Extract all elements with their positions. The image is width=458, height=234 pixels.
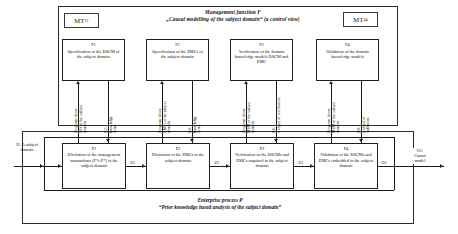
vertical-label-response-bfs: Response about BFs of the subject domain xyxy=(74,89,88,133)
process-code-p4: P4 xyxy=(318,146,374,151)
function-box-f2: F2 Specification of the EMCs of the subj… xyxy=(146,39,209,81)
feedback-line-lower-left xyxy=(44,166,45,190)
mt44-label: MT xyxy=(353,16,363,23)
vlabel-5-line3: domain xyxy=(251,89,256,133)
management-title-line1: Management function F xyxy=(205,9,261,15)
vertical-label-response-mem-verification: Response about MEM of the subject domain xyxy=(242,89,256,133)
vertical-label-k8: K8: a object of validation xyxy=(357,89,371,133)
arrow-up-f2-response xyxy=(160,81,164,84)
feedback-line-lower-right xyxy=(394,166,395,190)
flow-label-z3: Z3 xyxy=(298,160,303,165)
connector-line-input xyxy=(14,166,62,167)
arrow-right-z3 xyxy=(310,164,313,168)
output-label-o1: O1: Causal model xyxy=(402,148,438,164)
vlabel-8-line3: validation xyxy=(366,89,371,133)
flow-label-z1: Z1 xyxy=(130,160,135,165)
mt11-subscript: 11 xyxy=(85,18,89,23)
function-box-f3: F3 Verification of the domain knowledge … xyxy=(230,39,293,81)
vlabel-3-line3: domain xyxy=(167,89,172,133)
flow-label-o1: O1 xyxy=(381,160,387,165)
function-box-f1: F1 Specification of the DSCM of the subj… xyxy=(62,39,125,81)
arrow-down-f4-object xyxy=(359,139,363,142)
function-box-f4: F4 Validation of the domain knowledge mo… xyxy=(316,39,379,81)
arrow-right-z2 xyxy=(226,164,229,168)
management-title-line2: „Causal modelling of the subject domain“… xyxy=(166,16,299,22)
input-label-i1: I1: A subject domain xyxy=(6,142,48,152)
arrow-right-feedback-left xyxy=(40,164,43,168)
mt11-label: MT xyxy=(74,17,84,24)
vlabel-7-line3: domain xyxy=(336,89,341,133)
function-text-f1: Specification of the DSCM of the subject… xyxy=(67,49,119,59)
vlabel-2-line3: items xyxy=(113,89,118,133)
function-code-f4: F4 xyxy=(319,42,376,47)
function-code-f2: F2 xyxy=(149,42,206,47)
vlabel-1-line1: Response about xyxy=(74,108,78,133)
arrow-down-f3-object xyxy=(274,139,278,142)
output-label-line3: model xyxy=(402,158,438,163)
vlabel-2-line1: K2: xyxy=(104,127,108,133)
flow-label-z2: Z2 xyxy=(214,160,219,165)
vlabel-6-line1: K6: xyxy=(272,127,276,133)
vlabel-8-line1: K8: xyxy=(357,127,361,133)
arrow-right-input xyxy=(58,164,61,168)
enterprise-title-line1: Enterprise process P xyxy=(197,197,242,203)
process-code-p1: P1 xyxy=(66,146,122,151)
arrow-down-f2-knowledge xyxy=(190,139,194,142)
vlabel-1-line3: domain xyxy=(83,89,88,133)
mt44-subscript: 44 xyxy=(363,17,367,22)
management-function-title: Management function F „Causal modelling … xyxy=(118,9,348,23)
arrow-right-z1 xyxy=(142,164,145,168)
arrow-up-f3-response xyxy=(244,81,248,84)
mt44-badge: MT44 xyxy=(343,12,378,27)
process-box-p2: P2 Elicitation of the EMCs in the subjec… xyxy=(146,143,210,189)
vlabel-7-line1: Response about xyxy=(327,108,331,133)
input-label-line2: domain xyxy=(6,147,48,152)
vlabel-5-line1: Response about xyxy=(242,108,246,133)
vlabel-3-line1: Response about xyxy=(158,108,162,133)
feedback-bus-lower xyxy=(44,190,394,191)
arrow-right-output xyxy=(440,164,443,168)
vlabel-6-line2: a object of verification xyxy=(277,89,282,133)
function-code-f1: F1 xyxy=(65,42,122,47)
enterprise-title-line2: “Prior knowledge based analysis of the s… xyxy=(159,204,281,210)
feedback-line-right xyxy=(394,137,395,167)
vlabel-4-line1: K4: xyxy=(188,127,192,133)
function-text-f3: Verification of the domain knowledge mod… xyxy=(235,49,288,65)
process-code-p2: P2 xyxy=(150,146,206,151)
enterprise-process-title: Enterprise process P “Prior knowledge ba… xyxy=(120,197,320,212)
arrow-down-f1-knowledge xyxy=(106,139,110,142)
feedback-line-left xyxy=(44,137,45,167)
process-box-p1: P1 Elicitation of the management transac… xyxy=(62,143,126,189)
connector-line-output xyxy=(378,166,444,167)
process-box-p4: P4 Validation of the DSCMs and EMCs embe… xyxy=(314,143,378,189)
process-text-p2: Elicitation of the EMCs in the subject d… xyxy=(152,152,204,162)
process-box-p3: P3 Verification of the DSCMs and EMCs ac… xyxy=(230,143,294,189)
function-code-f3: F3 xyxy=(233,42,290,47)
arrow-up-f4-response xyxy=(329,81,333,84)
mt11-badge: MT11 xyxy=(64,13,99,28)
process-code-p3: P3 xyxy=(234,146,290,151)
diagram-canvas: Management function F „Causal modelling … xyxy=(0,0,458,234)
vertical-label-k6: K6: a object of verification xyxy=(272,89,281,133)
vertical-label-response-emcs: Response about EMCs of the subject domai… xyxy=(158,89,172,133)
vlabel-4-line3: items xyxy=(197,89,202,133)
function-text-f4: Validation of the domain knowledge model… xyxy=(326,49,369,59)
process-text-p3: Verification of the DSCMs and EMCs acqui… xyxy=(235,152,289,168)
function-text-f2: Specification of the EMCs of the subject… xyxy=(152,49,203,59)
feedback-bus-horizontal xyxy=(44,137,394,138)
vertical-label-k4: K4: knowledge items xyxy=(188,89,202,133)
process-text-p4: Validation of the DSCMs and EMCs embedde… xyxy=(319,152,373,168)
arrow-up-f1-response xyxy=(76,81,80,84)
process-text-p1: Elicitation of the management transactio… xyxy=(68,152,120,168)
vertical-label-k2: K2: knowledge items xyxy=(104,89,118,133)
vertical-label-response-mem-validation: Response about MEM of the subject domain xyxy=(327,89,341,133)
